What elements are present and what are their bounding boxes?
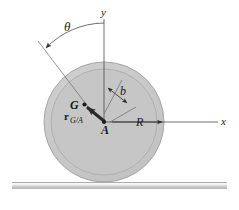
r-ga-label-main: r [64, 110, 69, 122]
b-label: b [120, 84, 126, 98]
theta-label: θ [64, 19, 71, 34]
mechanics-diagram: b R θ y x G A r G/A [0, 0, 239, 210]
x-axis-label: x [220, 115, 226, 127]
ground-surface [12, 183, 227, 189]
point-G-label: G [70, 98, 79, 112]
r-ga-label-subscript: G/A [70, 116, 83, 125]
point-G-marker [82, 102, 86, 106]
R-label: R [135, 115, 144, 129]
y-axis-label: y [100, 6, 106, 18]
point-A-label: A [100, 123, 109, 137]
theta-arc [46, 23, 104, 48]
ground-bar [12, 183, 227, 189]
figure-root: b R θ y x G A r G/A [0, 0, 239, 210]
